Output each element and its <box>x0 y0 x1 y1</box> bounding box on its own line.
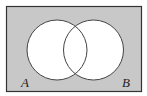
venn-diagram: A B <box>0 0 147 96</box>
set-b-label: B <box>122 75 130 90</box>
set-a-label: A <box>20 75 29 90</box>
